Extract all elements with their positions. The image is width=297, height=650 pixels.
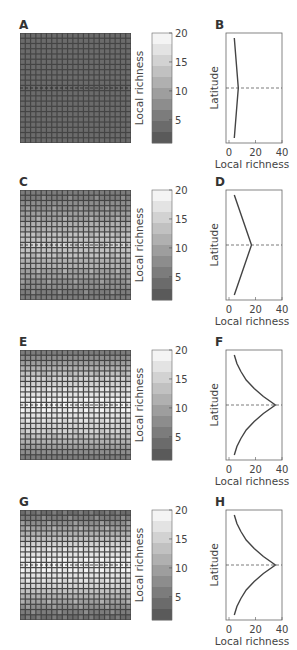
colorbar-tick-label: 10 <box>175 86 188 97</box>
line-panel-f: F02040Local richnessLatitude <box>208 335 289 487</box>
x-tick-label: 40 <box>276 147 289 158</box>
panel-letter: F <box>215 335 223 349</box>
x-tick-label: 20 <box>249 304 262 315</box>
colorbar-tick-label: 15 <box>175 214 188 225</box>
colorbar-tick-label: 20 <box>175 185 188 196</box>
colorbar-tick-label: 20 <box>175 345 188 356</box>
line-panel-d: D02040Local richnessLatitude <box>208 175 289 327</box>
colorbar-tick-label: 15 <box>175 374 188 385</box>
heatmap-panel-g: G <box>19 495 131 620</box>
x-tick-label: 0 <box>226 624 232 635</box>
heatmap-panel-a: A <box>19 18 131 143</box>
colorbar-tick-label: 15 <box>175 534 188 545</box>
y-axis-label: Latitude <box>208 383 220 426</box>
x-axis-label: Local richness <box>215 475 289 487</box>
colorbar-tick-label: 5 <box>175 432 181 443</box>
colorbar-tick-label: 20 <box>175 505 188 516</box>
colorbar-tick-label: 5 <box>175 115 181 126</box>
panel-letter: A <box>19 18 29 32</box>
colorbar-tick-label: 20 <box>175 28 188 39</box>
colorbar-label: Local richness <box>133 528 145 602</box>
panel-letter: G <box>19 495 29 509</box>
panel-letter: D <box>215 175 225 189</box>
colorbar-tick-label: 5 <box>175 272 181 283</box>
x-tick-label: 20 <box>249 464 262 475</box>
colorbar: 5101520Local richness <box>133 185 188 300</box>
heatmap-panel-e: E <box>19 335 131 460</box>
x-axis-label: Local richness <box>215 315 289 327</box>
figure-canvas: A5101520Local richnessB02040Local richne… <box>0 0 297 650</box>
line-panel-h: H02040Local richnessLatitude <box>208 495 289 647</box>
colorbar: 5101520Local richness <box>133 28 188 143</box>
colorbar-tick-label: 10 <box>175 563 188 574</box>
colorbar: 5101520Local richness <box>133 505 188 620</box>
x-tick-label: 0 <box>226 304 232 315</box>
colorbar-tick-label: 15 <box>175 57 188 68</box>
figure: A5101520Local richnessB02040Local richne… <box>0 0 297 650</box>
x-tick-label: 40 <box>276 464 289 475</box>
x-tick-label: 20 <box>249 147 262 158</box>
colorbar-tick-label: 5 <box>175 592 181 603</box>
x-tick-label: 40 <box>276 304 289 315</box>
panel-letter: B <box>215 18 224 32</box>
colorbar-label: Local richness <box>133 368 145 442</box>
y-axis-label: Latitude <box>208 543 220 586</box>
x-tick-label: 40 <box>276 624 289 635</box>
panel-letter: E <box>19 335 27 349</box>
panel-letter: C <box>19 175 28 189</box>
x-axis-label: Local richness <box>215 635 289 647</box>
y-axis-label: Latitude <box>208 223 220 266</box>
colorbar-tick-label: 10 <box>175 403 188 414</box>
colorbar-tick-label: 10 <box>175 243 188 254</box>
colorbar: 5101520Local richness <box>133 345 188 460</box>
y-axis-label: Latitude <box>208 66 220 109</box>
x-tick-label: 20 <box>249 624 262 635</box>
x-tick-label: 0 <box>226 464 232 475</box>
x-axis-label: Local richness <box>215 158 289 170</box>
panel-letter: H <box>215 495 225 509</box>
colorbar-label: Local richness <box>133 51 145 125</box>
colorbar-label: Local richness <box>133 208 145 282</box>
x-tick-label: 0 <box>226 147 232 158</box>
line-panel-b: B02040Local richnessLatitude <box>208 18 289 170</box>
heatmap-panel-c: C <box>19 175 131 300</box>
